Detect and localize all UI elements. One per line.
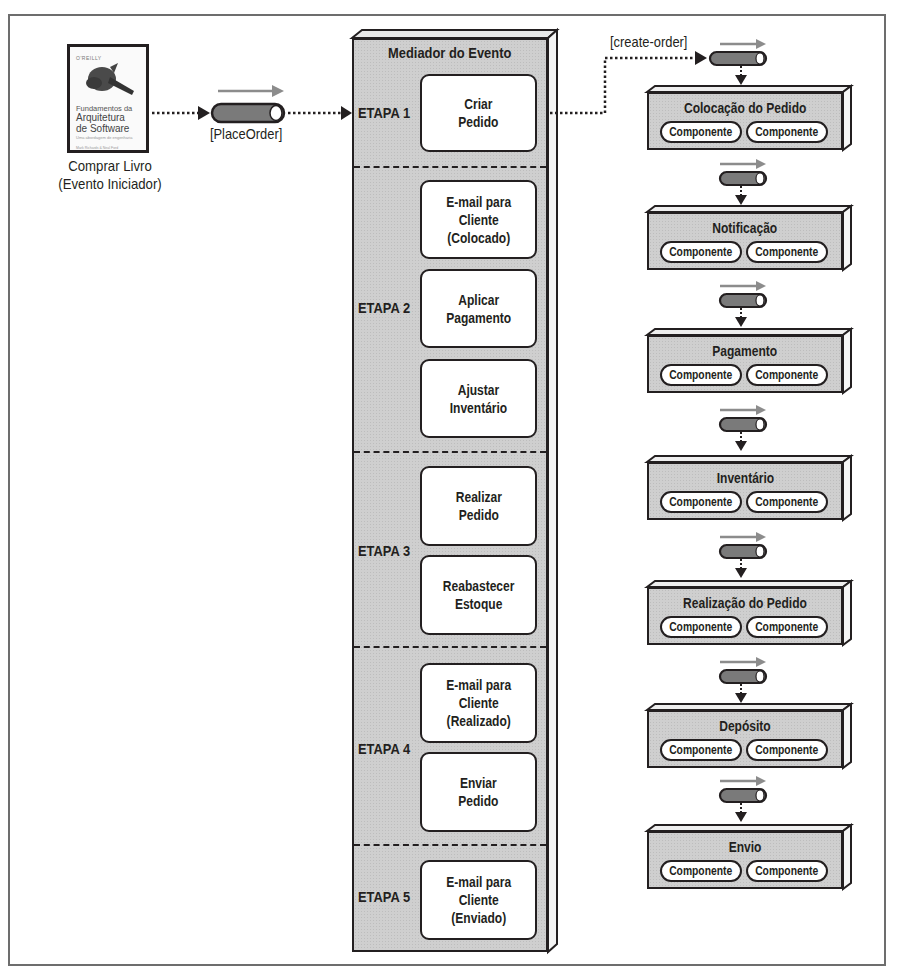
initiator-caption-line1: Comprar Livro [48,157,171,175]
component-pill: Componente [660,616,742,638]
task-email-colocado: E-mail para Cliente (Colocado) [420,180,537,259]
component-pill: Componente [746,241,828,263]
book-title-line2: Arquitetura [76,112,125,123]
component-pill: Componente [746,860,828,882]
component-pill: Componente [746,491,828,513]
component-pill: Componente [660,739,742,761]
step-label-2: ETAPA 2 [358,299,419,316]
service-title: Inventário [649,470,841,486]
service-title: Pagamento [649,343,841,359]
component-pill: Componente [660,364,742,386]
step-label-4: ETAPA 4 [358,740,419,757]
component-pill: Componente [660,860,742,882]
initiator-caption: Comprar Livro (Evento Iniciador) [40,157,180,193]
service-realizacao-do-pedido: Realização do Pedido Componente Componen… [647,587,843,645]
component-pill: Componente [660,491,742,513]
initiating-event-label: [PlaceOrder] [196,125,296,142]
component-pill: Componente [660,121,742,143]
service-title: Colocação do Pedido [649,100,841,116]
book-subtitle: Uma abordagem de engenharia [76,135,132,140]
task-enviar-pedido: Enviar Pedido [420,752,537,832]
service-pagamento: Pagamento Componente Componente [647,335,843,393]
service-deposito: Depósito Componente Componente [647,710,843,768]
task-email-enviado: E-mail para Cliente (Enviado) [420,860,537,940]
service-notificacao: Notificação Componente Componente [647,212,843,270]
task-criar-pedido: Criar Pedido [420,74,537,152]
book-authors: Mark Richards & Neal Ford [76,146,118,150]
service-title: Notificação [649,220,841,236]
step-label-3: ETAPA 3 [358,542,419,559]
animal-illustration-icon [84,61,134,101]
task-realizar-pedido: Realizar Pedido [420,466,537,546]
service-title: Depósito [649,718,841,734]
step-divider [354,166,546,168]
service-envio: Envio Componente Componente [647,831,843,889]
service-inventario: Inventário Componente Componente [647,462,843,520]
component-pill: Componente [660,241,742,263]
step-divider [354,451,546,453]
component-pill: Componente [746,364,828,386]
step-label-5: ETAPA 5 [358,888,419,905]
initiator-caption-line2: (Evento Iniciador) [48,175,171,193]
component-pill: Componente [746,739,828,761]
service-title: Envio [649,839,841,855]
step-divider [354,844,546,846]
task-aplicar-pagamento: Aplicar Pagamento [420,269,537,348]
channel-label: [create-order] [610,33,700,50]
component-pill: Componente [746,616,828,638]
task-ajustar-inventario: Ajustar Inventário [420,359,537,438]
step-label-1: ETAPA 1 [358,104,419,121]
component-pill: Componente [746,121,828,143]
service-title: Realização do Pedido [649,595,841,611]
step-divider [354,646,546,648]
book-cover-image: O'REILLY Fundamentos da Arquitetura de S… [67,44,149,153]
task-reabastecer-estoque: Reabastecer Estoque [420,555,537,635]
book-title-line3: de Software [76,123,129,134]
mediator-title: Mediador do Evento [352,44,548,61]
service-colocacao-do-pedido: Colocação do Pedido Componente Component… [647,92,843,150]
task-email-realizado: E-mail para Cliente (Realizado) [420,663,537,743]
